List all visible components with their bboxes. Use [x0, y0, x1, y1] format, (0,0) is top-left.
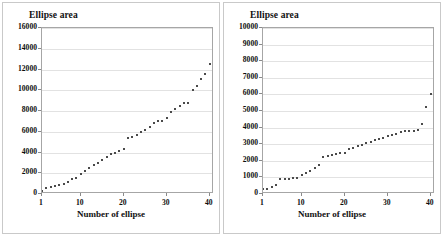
data-point [106, 156, 108, 158]
data-point [118, 150, 120, 152]
data-point [400, 131, 402, 133]
y-axis-tick-mark [259, 110, 262, 111]
y-axis-tick-mark [259, 44, 262, 45]
data-point [75, 177, 77, 179]
data-point [266, 188, 268, 190]
x-axis-tick-label: 30 [152, 198, 180, 207]
y-axis-tick-label: 4000 [224, 123, 258, 131]
data-point [144, 129, 146, 131]
data-point [301, 174, 303, 176]
y-axis-tick-label: 6000 [3, 127, 37, 135]
y-axis-tick-mark [38, 27, 41, 28]
x-axis-tick-mark [209, 193, 210, 196]
data-point [413, 130, 415, 132]
y-axis-tick-label: 7000 [224, 73, 258, 81]
y-axis-tick-label: 10000 [224, 23, 258, 31]
data-point [339, 152, 341, 154]
x-axis-tick-label: 20 [330, 198, 358, 207]
x-axis-tick-mark [166, 193, 167, 196]
x-axis-tick-label: 1 [248, 198, 276, 207]
data-point [71, 178, 73, 180]
gridline-horizontal [42, 49, 212, 50]
data-point [136, 134, 138, 136]
data-point [288, 178, 290, 180]
y-axis-tick-label: 14000 [3, 44, 37, 52]
x-axis-tick-mark [41, 193, 42, 196]
gridline-horizontal [263, 45, 433, 46]
data-point [361, 144, 363, 146]
y-axis-tick-mark [38, 89, 41, 90]
y-axis-tick-mark [259, 60, 262, 61]
x-axis-tick-mark [430, 193, 431, 196]
x-axis-tick-label: 40 [195, 198, 223, 207]
data-point [271, 186, 273, 188]
chart-panel-left: Ellipse area Number of ellipse 020004000… [2, 2, 220, 234]
data-point [395, 133, 397, 135]
data-point [357, 145, 359, 147]
data-point [45, 187, 47, 189]
x-axis-tick-label: 10 [287, 198, 315, 207]
y-axis-tick-label: 0 [224, 189, 258, 197]
data-point [157, 120, 159, 122]
y-axis-tick-label: 3000 [224, 139, 258, 147]
data-point [50, 186, 52, 188]
x-axis-tick-mark [80, 193, 81, 196]
x-axis-tick-mark [301, 193, 302, 196]
data-point [54, 185, 56, 187]
x-axis-title-left: Number of ellipse [3, 209, 219, 219]
data-point [421, 123, 423, 125]
x-axis-tick-mark [262, 193, 263, 196]
data-point [374, 139, 376, 141]
y-axis-tick-mark [259, 77, 262, 78]
y-axis-tick-label: 8000 [224, 56, 258, 64]
data-point [292, 177, 294, 179]
data-point [408, 130, 410, 132]
data-point [192, 89, 194, 91]
y-axis-tick-mark [38, 172, 41, 173]
data-point [166, 117, 168, 119]
y-axis-tick-label: 8000 [3, 106, 37, 114]
x-axis-tick-mark [387, 193, 388, 196]
data-point [174, 108, 176, 110]
y-axis-tick-mark [38, 69, 41, 70]
gridline-horizontal [263, 61, 433, 62]
x-axis-tick-label: 20 [109, 198, 137, 207]
y-axis-tick-label: 10000 [3, 85, 37, 93]
gridline-horizontal [263, 128, 433, 129]
y-axis-tick-label: 9000 [224, 40, 258, 48]
data-point [305, 172, 307, 174]
gridline-horizontal [263, 144, 433, 145]
data-point [370, 141, 372, 143]
data-point [344, 152, 346, 154]
data-point [183, 102, 185, 104]
plot-area-right [262, 27, 434, 193]
data-point [187, 102, 189, 104]
x-axis-tick-label: 1 [27, 198, 55, 207]
x-axis-tick-label: 30 [373, 198, 401, 207]
data-point [123, 148, 125, 150]
data-point [430, 93, 432, 95]
y-axis-tick-label: 6000 [224, 89, 258, 97]
data-point [204, 73, 206, 75]
gridline-horizontal [42, 111, 212, 112]
y-axis-tick-label: 16000 [3, 23, 37, 31]
data-point [284, 178, 286, 180]
chart-panel-right: Ellipse area Number of ellipse 010002000… [223, 2, 441, 234]
x-axis-title-right: Number of ellipse [224, 209, 440, 219]
gridline-horizontal [263, 28, 433, 29]
x-axis-tick-mark [344, 193, 345, 196]
data-point [296, 177, 298, 179]
data-point [391, 134, 393, 136]
gridline-horizontal [42, 70, 212, 71]
data-point [179, 105, 181, 107]
x-axis-tick-label: 10 [66, 198, 94, 207]
data-point [84, 170, 86, 172]
data-point [314, 167, 316, 169]
data-point [63, 183, 65, 185]
y-axis-tick-label: 12000 [3, 65, 37, 73]
gridline-horizontal [263, 94, 433, 95]
data-point [309, 170, 311, 172]
data-point [387, 135, 389, 137]
gridline-horizontal [42, 173, 212, 174]
y-axis-tick-label: 4000 [3, 148, 37, 156]
